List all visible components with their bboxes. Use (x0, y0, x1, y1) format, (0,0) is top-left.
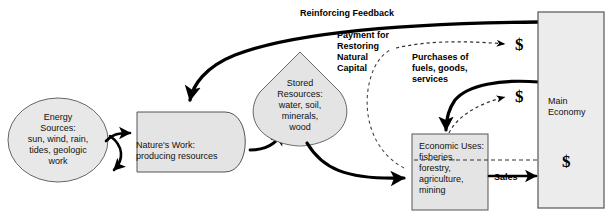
dollar-sales-icon: $ (562, 153, 571, 170)
dollar-purchases-icon: $ (515, 88, 524, 105)
energy-sources-shape (8, 98, 108, 182)
sales-label: Sales (494, 172, 518, 183)
dollar-payment-icon: $ (515, 36, 524, 53)
main-economy-shape (538, 12, 604, 208)
diagram-canvas (0, 0, 612, 218)
economic-uses-shape (412, 134, 488, 210)
purchases-label: Purchases of fuels, goods, services (412, 52, 469, 85)
energy-dissipation-arrow (110, 136, 121, 170)
payment-for-restoring-label: Payment for Restoring Natural Capital (337, 30, 389, 74)
purchases-dollar-dashed-arrow (449, 97, 505, 133)
natures-work-shape (137, 112, 245, 172)
stored-to-economic-arrow (307, 143, 404, 178)
reinforcing-feedback-label: Reinforcing Feedback (300, 8, 394, 19)
payment-dollar-dashed-arrow (396, 42, 505, 48)
stored-resources-shape (253, 52, 347, 146)
main-economy-to-economic-uses-arrow (446, 81, 539, 130)
ecological-economics-diagram: Energy Sources: sun, wind, rain, tides, … (0, 0, 612, 218)
